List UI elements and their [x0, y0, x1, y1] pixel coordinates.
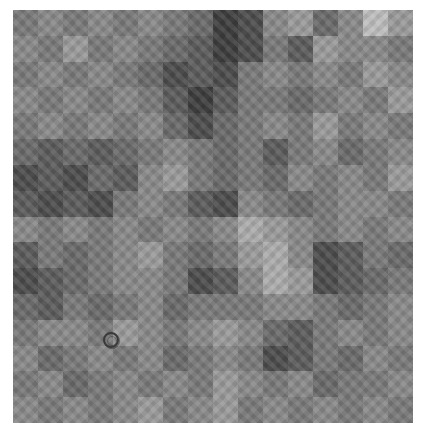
texture-cell	[63, 10, 88, 36]
texture-cell	[63, 217, 88, 243]
texture-cell	[13, 320, 38, 346]
texture-cell	[138, 191, 163, 217]
texture-cell	[313, 87, 338, 113]
texture-cell	[213, 346, 238, 372]
texture-cell	[388, 217, 413, 243]
texture-cell	[163, 294, 188, 320]
texture-cell	[138, 165, 163, 191]
texture-cell	[288, 36, 313, 62]
texture-cell	[13, 294, 38, 320]
texture-cell	[188, 242, 213, 268]
texture-cell	[13, 242, 38, 268]
texture-cell	[363, 62, 388, 88]
texture-cell	[288, 371, 313, 397]
texture-cell	[213, 217, 238, 243]
texture-cell	[63, 294, 88, 320]
texture-cell	[113, 268, 138, 294]
texture-cell	[13, 268, 38, 294]
texture-cell	[338, 191, 363, 217]
texture-cell	[363, 87, 388, 113]
texture-cell	[188, 294, 213, 320]
texture-cell	[38, 36, 63, 62]
texture-cell	[113, 113, 138, 139]
texture-cell	[113, 10, 138, 36]
texture-cell	[188, 371, 213, 397]
texture-cell	[88, 191, 113, 217]
texture-cell	[238, 165, 263, 191]
texture-cell	[263, 191, 288, 217]
texture-cell	[238, 268, 263, 294]
texture-cell	[213, 36, 238, 62]
texture-cell	[363, 139, 388, 165]
texture-cell	[63, 397, 88, 423]
texture-cell	[213, 397, 238, 423]
texture-cell	[163, 397, 188, 423]
texture-cell	[138, 320, 163, 346]
texture-cell	[388, 36, 413, 62]
texture-cell	[63, 268, 88, 294]
texture-cell	[338, 397, 363, 423]
texture-cell	[88, 10, 113, 36]
texture-cell	[263, 139, 288, 165]
texture-cell	[313, 165, 338, 191]
texture-cell	[288, 320, 313, 346]
texture-cell	[363, 113, 388, 139]
texture-cell	[113, 242, 138, 268]
texture-cell	[213, 87, 238, 113]
texture-cell	[363, 165, 388, 191]
texture-cell	[388, 268, 413, 294]
texture-cell	[163, 371, 188, 397]
texture-cell	[263, 113, 288, 139]
texture-cell	[188, 62, 213, 88]
texture-cell	[288, 397, 313, 423]
texture-cell	[38, 62, 63, 88]
texture-cell	[363, 10, 388, 36]
texture-cell	[188, 320, 213, 346]
texture-cell	[213, 320, 238, 346]
texture-cell	[88, 165, 113, 191]
texture-cell	[138, 139, 163, 165]
texture-cell	[338, 113, 363, 139]
texture-cell	[388, 113, 413, 139]
texture-cell	[138, 268, 163, 294]
texture-cell	[338, 217, 363, 243]
texture-cell	[113, 165, 138, 191]
texture-cell	[163, 346, 188, 372]
texture-cell	[38, 242, 63, 268]
texture-cell	[13, 87, 38, 113]
texture-cell	[288, 62, 313, 88]
texture-cell	[113, 62, 138, 88]
texture-cell	[88, 62, 113, 88]
texture-cell	[88, 346, 113, 372]
texture-cell	[13, 62, 38, 88]
texture-cell	[13, 165, 38, 191]
texture-cell	[138, 217, 163, 243]
texture-cell	[313, 397, 338, 423]
texture-cell	[63, 87, 88, 113]
texture-cell	[113, 397, 138, 423]
texture-cell	[163, 165, 188, 191]
texture-cell	[388, 165, 413, 191]
texture-cell	[38, 217, 63, 243]
texture-cell	[188, 217, 213, 243]
texture-cell	[238, 62, 263, 88]
texture-cell	[238, 217, 263, 243]
texture-cell	[238, 113, 263, 139]
texture-cell	[363, 191, 388, 217]
texture-cell	[388, 87, 413, 113]
circle-marker-inner	[107, 336, 117, 346]
texture-cell	[263, 294, 288, 320]
texture-cell	[188, 191, 213, 217]
texture-cell	[388, 346, 413, 372]
texture-cell	[388, 397, 413, 423]
texture-cell	[113, 139, 138, 165]
texture-cell	[213, 268, 238, 294]
texture-cell	[313, 36, 338, 62]
texture-cell	[138, 36, 163, 62]
texture-cell	[13, 36, 38, 62]
texture-cell	[288, 165, 313, 191]
texture-cell	[213, 139, 238, 165]
texture-cell	[388, 242, 413, 268]
texture-cell	[238, 371, 263, 397]
texture-cell	[338, 165, 363, 191]
